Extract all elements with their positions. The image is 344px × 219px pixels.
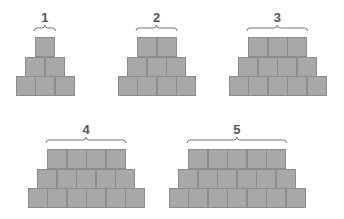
block (266, 149, 286, 169)
block (227, 188, 247, 208)
block (208, 149, 228, 169)
block (266, 188, 286, 208)
block (286, 188, 306, 208)
block (208, 188, 228, 208)
block (178, 169, 198, 189)
block (217, 169, 237, 189)
block (256, 169, 276, 189)
block (227, 149, 247, 169)
block (198, 169, 218, 189)
block (247, 188, 267, 208)
block (276, 169, 296, 189)
block (169, 188, 189, 208)
block (247, 149, 267, 169)
block (188, 188, 208, 208)
block (188, 149, 208, 169)
block (237, 169, 257, 189)
